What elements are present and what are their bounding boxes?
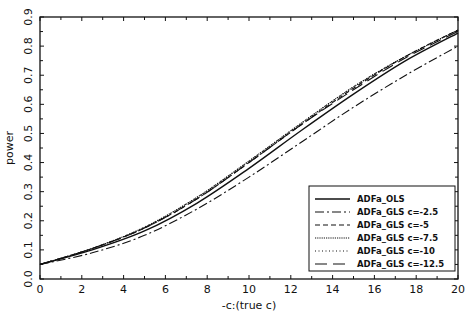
legend-entry: ADFa_GLS c=-2.5 — [357, 207, 438, 217]
x-tick-label: 20 — [451, 283, 465, 296]
y-tick-label: 0.1 — [22, 241, 35, 259]
legend-entry: ADFa_GLS c=-5 — [357, 220, 429, 230]
y-tick-label: 0.5 — [22, 125, 35, 143]
x-tick-label: 14 — [326, 283, 340, 296]
y-tick-label: 0.4 — [22, 154, 35, 172]
y-tick-label: 0.0 — [22, 270, 35, 288]
power-curve-chart: 02468101214161820 0.00.10.20.30.40.50.60… — [0, 0, 473, 322]
x-axis-label: -c:(true c) — [222, 299, 276, 312]
x-tick-label: 18 — [409, 283, 423, 296]
y-tick-label: 0.6 — [22, 96, 35, 114]
x-tick-label: 4 — [120, 283, 127, 296]
legend: ADFa_OLSADFa_GLS c=-2.5ADFa_GLS c=-5ADFa… — [309, 186, 455, 271]
y-tick-label: 0.8 — [22, 37, 35, 55]
legend-entry: ADFa_OLS — [357, 194, 405, 204]
y-tick-label: 0.9 — [22, 8, 35, 26]
y-tick-label: 0.3 — [22, 183, 35, 201]
x-tick-label: 10 — [242, 283, 256, 296]
x-tick-label: 8 — [204, 283, 211, 296]
x-tick-label: 12 — [284, 283, 298, 296]
legend-entry: ADFa_GLS c=-10 — [357, 246, 435, 256]
y-axis-label: power — [3, 131, 16, 165]
y-tick-label: 0.7 — [22, 66, 35, 84]
y-tick-label: 0.2 — [22, 212, 35, 230]
x-tick-label: 2 — [78, 283, 85, 296]
x-tick-label: 16 — [367, 283, 381, 296]
legend-entry: ADFa_GLS c=-7.5 — [357, 233, 438, 243]
x-tick-label: 6 — [162, 283, 169, 296]
legend-entry: ADFa_GLS c=-12.5 — [357, 259, 444, 269]
x-tick-label: 0 — [37, 283, 44, 296]
